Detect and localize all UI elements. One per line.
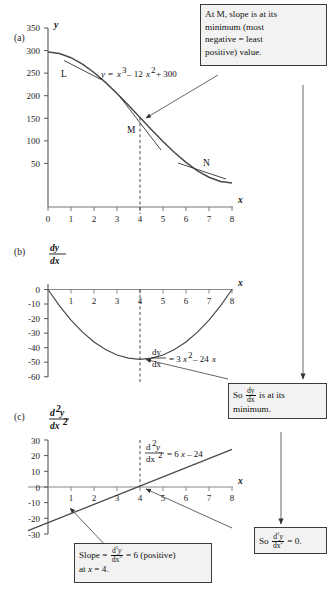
panel-a-ytick-300: 300 xyxy=(27,46,41,56)
panel-b-x-ticks xyxy=(71,290,232,294)
panel-a-xtick-1: 1 xyxy=(69,214,74,224)
panel-a-ytick-150: 150 xyxy=(27,114,41,124)
svg-text:x: x xyxy=(180,449,185,459)
panel-b-y-ticks xyxy=(44,290,48,377)
point-label-N: N xyxy=(203,158,210,168)
callout-dydx-minimum: So dy dx is at its minimum. xyxy=(228,383,327,419)
svg-text:=: = xyxy=(108,69,113,79)
callout-m-slope-minimum: At M, slope is at its minimum (most nega… xyxy=(200,4,327,66)
panel-c-xtick-4: 4 xyxy=(138,493,143,503)
panel-b-yaxis-label: dy dx xyxy=(49,243,66,266)
panel-c-yaxis-label: d 2 y dx 2 xyxy=(49,404,69,431)
panel-c-equation: d 2 y dx 2 = 6 x – 24 xyxy=(145,438,203,464)
panel-a-xtick-2: 2 xyxy=(92,214,97,224)
panel-a-ytick-250: 250 xyxy=(27,68,41,78)
panel-c-ytick-10: 10 xyxy=(31,467,41,477)
panel-b-ytick-m30: -30 xyxy=(28,328,40,338)
panel-c-y-ticks xyxy=(44,440,48,534)
panel-a-xtick-0: 0 xyxy=(46,214,51,224)
panel-b-ytick-m20: -20 xyxy=(28,314,40,324)
svg-text:– 24: – 24 xyxy=(186,449,203,459)
svg-text:x: x xyxy=(116,69,121,79)
svg-text:= 6: = 6 xyxy=(167,449,179,459)
panel-c-xtick-8: 8 xyxy=(230,493,235,503)
svg-text:x: x xyxy=(145,69,150,79)
callout-slope-line2: at x = 4. xyxy=(79,563,207,576)
callout-line-4: positive) value. xyxy=(205,46,322,59)
panel-a-xtick-5: 5 xyxy=(161,214,166,224)
panel-a-ytick-200: 200 xyxy=(27,91,41,101)
panel-b-ytick-m40: -40 xyxy=(28,343,40,353)
callout-dydx-fraction: dy dx xyxy=(246,387,256,403)
panel-a-yaxis-label: y xyxy=(53,20,59,30)
callout-zero-den: dx2 xyxy=(272,542,284,550)
panel-a-xtick-6: 6 xyxy=(184,214,189,224)
panel-c-xaxis-label: x xyxy=(237,476,243,486)
panel-a-xtick-8: 8 xyxy=(230,214,235,224)
panel-b-yaxis-den: dx xyxy=(50,256,60,266)
panel-c-ytick-m30: -30 xyxy=(28,530,40,540)
callout-zero-after: = 0. xyxy=(287,536,301,546)
panel-b-xtick-4: 4 xyxy=(138,296,143,306)
callout-dydx-lead: So xyxy=(233,390,243,400)
panel-a-xaxis-label: x xyxy=(237,195,243,205)
panel-b-xaxis-label: x xyxy=(237,278,243,288)
callout-slope-line1: Slope = d3y dx3 = 6 (positive) xyxy=(79,547,207,563)
svg-text:d: d xyxy=(146,442,151,452)
panel-c-xtick-6: 6 xyxy=(184,493,189,503)
callout-slope-after: = 6 (positive) xyxy=(126,550,176,560)
panel-c-xtick-5: 5 xyxy=(161,493,166,503)
callout-zero-lead: So xyxy=(259,536,269,546)
callout-dydx-after: is at its xyxy=(259,390,285,400)
point-label-L: L xyxy=(61,69,67,79)
svg-text:dx: dx xyxy=(146,454,156,464)
callout-m-arrow xyxy=(146,75,218,118)
callout-dydx-line1: So dy dx is at its xyxy=(233,387,322,403)
panel-a-y-ticks xyxy=(44,28,48,163)
panel-c-ytick-m10: -10 xyxy=(28,498,40,508)
callout-slope-line2-tail: = 4. xyxy=(92,564,109,574)
svg-text:2: 2 xyxy=(62,417,68,427)
panel-c-x-ticks xyxy=(71,487,232,491)
svg-text:y: y xyxy=(100,69,105,79)
panel-b-xtick-3: 3 xyxy=(115,296,120,306)
svg-text:= 3: = 3 xyxy=(169,354,181,364)
svg-text:2: 2 xyxy=(188,350,193,360)
callout-line-2: minimum (most xyxy=(205,21,322,34)
svg-text:2: 2 xyxy=(158,450,163,460)
callout-slope-positive: Slope = d3y dx3 = 6 (positive) at x = 4. xyxy=(74,543,212,583)
svg-text:dy: dy xyxy=(152,347,162,357)
panel-a-xtick-3: 3 xyxy=(115,214,120,224)
callout-slope-line2-lead: at xyxy=(79,564,88,574)
callout-line-1: At M, slope is at its xyxy=(205,8,322,21)
svg-text:dx: dx xyxy=(152,359,162,369)
panel-b-xtick-2: 2 xyxy=(92,296,97,306)
panel-c-xtick-1: 1 xyxy=(69,493,74,503)
panel-c-xtick-3: 3 xyxy=(115,493,120,503)
svg-text:d: d xyxy=(50,408,55,418)
callout-line-3: negative = least xyxy=(205,33,322,46)
callout-d2ydx2-zero: So d2y dx2 = 0. xyxy=(254,527,327,554)
svg-text:– 12: – 12 xyxy=(126,69,143,79)
svg-text:x: x xyxy=(211,354,216,364)
panel-a-equation: y = x 3 – 12 x 2 + 300 xyxy=(100,65,177,79)
panel-a-ytick-100: 100 xyxy=(27,136,41,146)
panel-b-yaxis-num: dy xyxy=(50,243,60,253)
callout-dydx-line2: minimum. xyxy=(233,403,322,416)
panel-b-ytick-0: 0 xyxy=(36,285,41,295)
panel-b-ytick-m10: -10 xyxy=(28,299,40,309)
panel-a-xtick-4: 4 xyxy=(138,214,143,224)
callout-zero-line1: So d2y dx2 = 0. xyxy=(259,533,322,549)
panel-b-xtick-6: 6 xyxy=(184,296,189,306)
callout-slope-den: dx3 xyxy=(111,556,123,564)
panel-a-ytick-50: 50 xyxy=(31,159,41,169)
callout-slope-lead: Slope = xyxy=(79,550,107,560)
panel-b-xtick-1: 1 xyxy=(69,296,74,306)
figure-svg: (a) y x 350 300 250 200 150 100 50 0 1 2… xyxy=(0,0,331,604)
callout-dydx-den: dx xyxy=(246,396,256,404)
panel-b-xtick-8: 8 xyxy=(230,296,235,306)
svg-text:+ 300: + 300 xyxy=(156,69,177,79)
panel-a-xtick-7: 7 xyxy=(207,214,212,224)
panel-c-ytick-0: 0 xyxy=(36,483,41,493)
panel-a-label: (a) xyxy=(14,33,25,44)
